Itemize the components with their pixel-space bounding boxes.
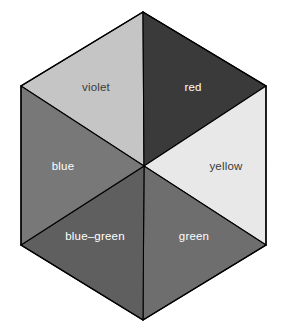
color-hexagon-diagram: violet red yellow green blue–green blue [0,0,288,332]
segment-label-blue-green: blue–green [65,230,125,242]
segment-label-yellow: yellow [209,160,243,172]
segment-label-violet: violet [82,81,111,93]
segment-label-green: green [179,230,209,242]
segment-label-red: red [184,81,201,93]
segment-label-blue: blue [52,160,75,172]
